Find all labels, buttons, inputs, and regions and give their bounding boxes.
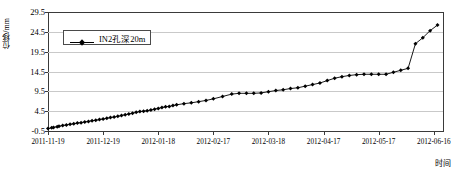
plot-area [0,0,457,170]
legend-label: IN2孔深20m [99,32,145,44]
legend-marker-icon [69,33,95,42]
chart-container: 位移/mm 时间 -0.54.59.514.519.524.529.5 2011… [0,0,457,170]
chart-legend: IN2孔深20m [63,30,151,45]
